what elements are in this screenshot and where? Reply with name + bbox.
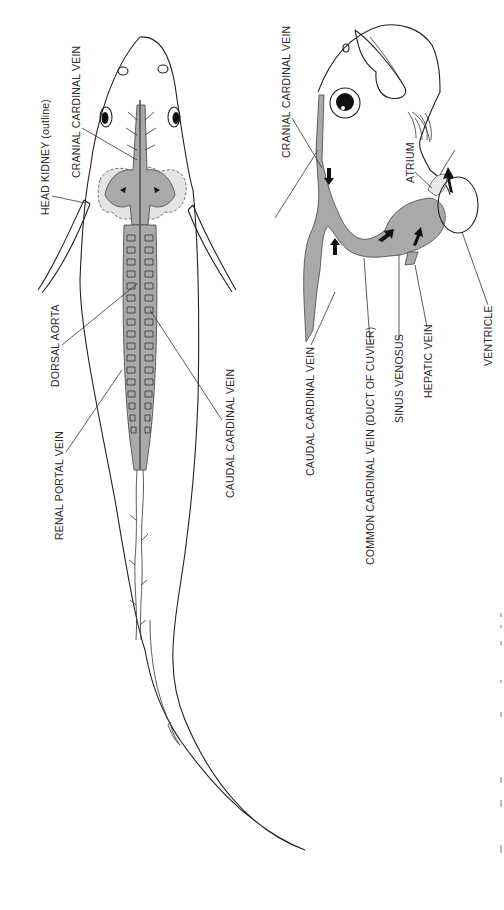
leader-hepatic-vein (415, 265, 427, 327)
cranial-cardinal-vein-lateral (304, 95, 446, 342)
nostril-left-icon (118, 67, 128, 75)
hepatic-vein-shape (405, 252, 418, 265)
ventricle-shape (438, 177, 478, 233)
label-cranial-cardinal-vein: CRANIAL CARDINAL VEIN (70, 46, 82, 178)
label-hepatic-vein: HEPATIC VEIN (422, 324, 434, 398)
leader-renal-portal (66, 370, 122, 452)
label-common-cardinal-vein: COMMON CARDINAL VEIN (DUCT OF CUVIER) (364, 327, 376, 565)
leader-cranial-outer (275, 150, 318, 218)
label-caudal-cardinal-vein-left: CAUDAL CARDINAL VEIN (224, 369, 236, 498)
label-sinus-venosus: SINUS VENOSUS (393, 334, 405, 423)
caudal-vessels (129, 470, 148, 640)
label-head-kidney: HEAD KIDNEY (outline) (39, 99, 51, 215)
fish-body-outline (80, 37, 305, 850)
gill-arches (408, 112, 431, 142)
diagram-canvas: CRANIAL CARDINAL VEIN HEAD KIDNEY (outli… (0, 0, 504, 910)
left-fish-panel: CRANIAL CARDINAL VEIN HEAD KIDNEY (outli… (38, 37, 305, 850)
right-fish-panel: CRANIAL CARDINAL VEIN ATRIUM CAUDAL CARD… (275, 25, 494, 565)
leader-atrium (415, 172, 432, 188)
tail-fin-notch (168, 722, 180, 745)
jaw-outline (355, 30, 406, 99)
leader-head-kidney (52, 196, 85, 203)
label-ventricle: VENTRICLE (482, 305, 494, 366)
caption-sliver (500, 613, 502, 853)
leader-caudal-cardinal (150, 310, 222, 420)
leader-cranial-cardinal (82, 128, 137, 160)
label-renal-portal-vein: RENAL PORTAL VEIN (53, 431, 65, 540)
eye-pupil-icon (336, 93, 354, 111)
label-cranial-cardinal-vein-right: CRANIAL CARDINAL VEIN (280, 26, 292, 158)
head-outline (318, 25, 440, 170)
label-dorsal-aorta: DORSAL AORTA (49, 304, 61, 387)
eye-left-pupil-icon (102, 112, 109, 124)
leader-ventricle (462, 232, 488, 305)
nostril-right-icon (158, 65, 168, 73)
eye-right-pupil-icon (173, 112, 180, 124)
label-atrium: ATRIUM (404, 142, 416, 183)
eye-highlight-icon (341, 106, 345, 110)
label-caudal-cardinal-vein-right: CAUDAL CARDINAL VEIN (304, 347, 316, 476)
tail-line (150, 620, 180, 740)
